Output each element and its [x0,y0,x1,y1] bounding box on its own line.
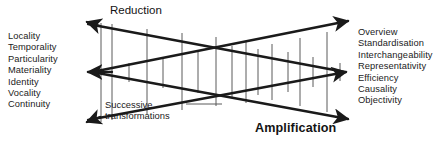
right-term: Objectivity [358,95,433,106]
left-term: Locality [8,31,58,42]
left-term: Materiality [8,65,58,76]
left-term: Particularity [8,54,58,65]
right-term: Causality [358,84,433,95]
left-term: Temporality [8,42,58,53]
left-term: Vocality [8,88,58,99]
successive-transformations-line-2: transformations [105,110,170,121]
successive-transformations-label: Successive transformations [105,99,170,121]
left-term: Continuity [8,99,58,110]
amplification-label: Amplification [255,121,336,135]
right-term: Representativity [358,61,433,72]
right-terms-list: Overview Standardisation Interchangeabil… [358,27,433,107]
diagram-canvas: Reduction Amplification Successive trans… [0,0,441,144]
successive-transformations-line-1: Successive [105,99,170,110]
reduction-triangle [87,21,348,72]
right-term: Standardisation [358,38,433,49]
right-term: Efficiency [358,73,433,84]
left-terms-list: Locality Temporality Particularity Mater… [8,31,58,111]
reduction-label: Reduction [110,4,162,16]
right-term: Overview [358,27,433,38]
left-term: Identity [8,77,58,88]
right-term: Interchangeability [358,50,433,61]
